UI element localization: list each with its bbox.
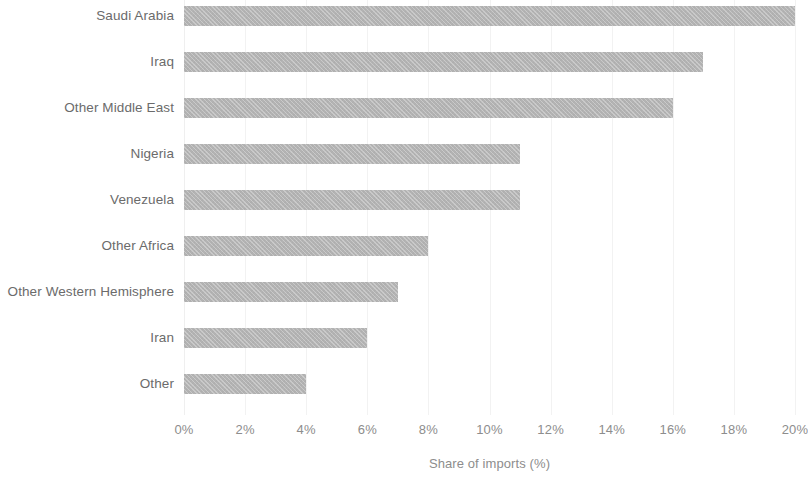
bar — [184, 236, 428, 256]
bar-row: Iran — [0, 328, 807, 374]
bar — [184, 374, 306, 394]
bar-row: Other Africa — [0, 236, 807, 282]
x-axis-tick-label: 18% — [721, 421, 748, 439]
bar-row: Nigeria — [0, 144, 807, 190]
x-axis-tick-label: 10% — [476, 421, 503, 439]
bar — [184, 98, 673, 118]
x-axis-tick-label: 4% — [297, 421, 316, 439]
x-axis-tick-label: 8% — [419, 421, 438, 439]
category-label: Iran — [0, 328, 174, 348]
category-label: Other — [0, 374, 174, 394]
x-axis-tick-label: 2% — [235, 421, 254, 439]
x-axis-title: Share of imports (%) — [184, 456, 795, 471]
x-axis-tick-label: 16% — [659, 421, 686, 439]
x-axis-tick-label: 0% — [174, 421, 193, 439]
bar-row: Other — [0, 374, 807, 420]
category-label: Iraq — [0, 52, 174, 72]
category-label: Venezuela — [0, 190, 174, 210]
x-axis-tick-label: 12% — [537, 421, 564, 439]
bar — [184, 190, 520, 210]
category-label: Nigeria — [0, 144, 174, 164]
bar — [184, 144, 520, 164]
category-label: Other Middle East — [0, 98, 174, 118]
bar — [184, 328, 367, 348]
x-axis-tick-label: 6% — [358, 421, 377, 439]
bar-row: Other Middle East — [0, 98, 807, 144]
bar-row: Saudi Arabia — [0, 6, 807, 52]
category-label: Other Africa — [0, 236, 174, 256]
category-label: Other Western Hemisphere — [0, 282, 174, 302]
bar — [184, 52, 703, 72]
bar-row: Iraq — [0, 52, 807, 98]
bar — [184, 282, 398, 302]
bar-row: Other Western Hemisphere — [0, 282, 807, 328]
x-axis-tick-label: 14% — [598, 421, 625, 439]
bar-row: Venezuela — [0, 190, 807, 236]
x-axis-tick-label: 20% — [782, 421, 808, 439]
bar — [184, 6, 795, 26]
category-label: Saudi Arabia — [0, 6, 174, 26]
